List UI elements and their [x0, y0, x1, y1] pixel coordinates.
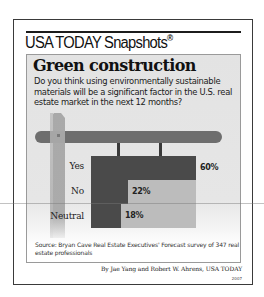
graphic-title: Green construction	[33, 56, 196, 75]
sign-hook-right-icon	[159, 143, 162, 156]
category-label-no: No	[24, 186, 84, 196]
header-rule	[26, 31, 241, 33]
sign-post-overlap	[50, 131, 65, 143]
nail-icon	[57, 134, 60, 137]
survey-question: Do you think using environmentally susta…	[34, 76, 244, 108]
category-label-neutral: Neutral	[24, 211, 84, 221]
bar-neutral	[91, 204, 121, 228]
bar-yes	[91, 156, 196, 180]
value-label-neutral: 18%	[125, 211, 143, 220]
source-note: Source: Bryan Cave Real Estate Executive…	[35, 241, 240, 256]
sign-hook-left-icon	[117, 143, 120, 156]
brand-title: USA TODAY Snapshots®	[25, 34, 172, 52]
brand-text: USA TODAY Snapshots	[25, 34, 167, 51]
registered-mark: ®	[167, 33, 172, 43]
value-label-yes: 60%	[200, 163, 218, 172]
year: 2007	[232, 276, 242, 281]
byline: By Jae Yang and Robert W. Ahrens, USA TO…	[101, 265, 242, 272]
bar-no	[91, 180, 128, 204]
scan-artifact-line	[0, 203, 264, 204]
category-label-yes: Yes	[24, 161, 84, 171]
value-label-no: 22%	[132, 187, 150, 196]
